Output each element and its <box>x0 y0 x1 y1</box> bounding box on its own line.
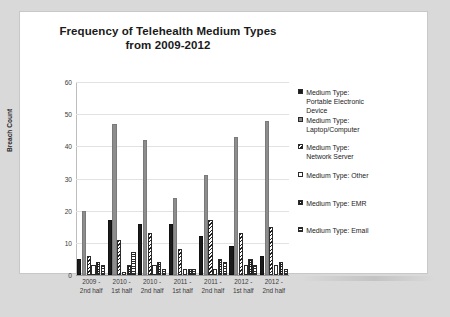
bar <box>96 262 100 275</box>
bar <box>260 256 264 275</box>
y-axis-tick-label: 50 <box>46 111 72 118</box>
bar <box>87 256 91 275</box>
legend-swatch-icon <box>298 117 303 122</box>
bar <box>284 269 288 275</box>
legend-label: Medium Type: Portable Electronic Device <box>306 88 364 116</box>
bar-group <box>259 82 289 275</box>
x-axis-labels: 2009 -2nd half2010 -1st half2010 -2nd ha… <box>76 278 289 302</box>
bar <box>248 259 252 275</box>
bar <box>192 269 196 275</box>
bar <box>101 265 105 275</box>
page-shadow <box>300 276 435 281</box>
y-axis-tick-label: 40 <box>46 143 72 150</box>
bar <box>188 269 192 275</box>
bar <box>204 175 208 275</box>
bar <box>143 140 147 275</box>
bar <box>269 227 273 275</box>
bar <box>274 265 278 275</box>
legend-label: Medium Type: Laptop/Computer <box>306 116 359 134</box>
bar <box>157 262 161 275</box>
bar <box>112 124 116 275</box>
y-axis-tick-label: 0 <box>46 272 72 279</box>
legend-item[interactable]: Medium Type: Other <box>298 171 369 180</box>
bar <box>122 272 126 275</box>
legend-item[interactable]: Medium Type: Network Server <box>298 143 354 161</box>
y-axis-label: Breach Count <box>6 109 13 152</box>
bar-group <box>167 82 197 275</box>
x-axis-tick-label: 2011 -2nd half <box>198 278 228 295</box>
bar <box>173 198 177 275</box>
bar <box>117 240 121 275</box>
bar <box>244 265 248 275</box>
legend-label: Medium Type: Other <box>306 171 368 180</box>
bar <box>82 211 86 275</box>
bar <box>178 249 182 275</box>
legend-item[interactable]: Medium Type: Laptop/Computer <box>298 116 359 134</box>
legend-label: Medium Type: EMR <box>306 199 366 208</box>
x-axis-tick-label: 2012 -1st half <box>228 278 258 295</box>
y-axis-ticks: 0102030405060 <box>42 82 72 275</box>
bar <box>152 265 156 275</box>
bar <box>234 137 238 275</box>
bar <box>279 262 283 275</box>
bar-group <box>137 82 167 275</box>
legend-item[interactable]: Medium Type: Email <box>298 226 368 235</box>
bar <box>131 252 135 275</box>
bar-group <box>106 82 136 275</box>
legend-label: Medium Type: Network Server <box>306 143 353 161</box>
bar <box>77 259 81 275</box>
y-axis-tick-label: 60 <box>46 79 72 86</box>
legend-item[interactable]: Medium Type: Portable Electronic Device <box>298 88 364 116</box>
bar <box>127 265 131 275</box>
x-axis-tick-label: 2010 -2nd half <box>137 278 167 295</box>
bar <box>183 269 187 275</box>
x-axis-tick-label: 2011 -1st half <box>168 278 198 295</box>
bar <box>138 224 142 275</box>
x-axis-line <box>76 275 289 276</box>
chart-card: Frequency of Telehealth Medium Types fro… <box>19 11 428 274</box>
bar <box>148 233 152 275</box>
plot-area <box>76 82 289 275</box>
legend-swatch-icon <box>298 89 303 94</box>
x-axis-tick-label: 2010 -1st half <box>107 278 137 295</box>
bar <box>229 246 233 275</box>
screenshot-root: Frequency of Telehealth Medium Types fro… <box>0 0 450 317</box>
bar-group <box>198 82 228 275</box>
bar <box>208 220 212 275</box>
legend-swatch-icon <box>298 144 303 149</box>
bar <box>213 269 217 275</box>
bar <box>223 262 227 275</box>
bar <box>218 259 222 275</box>
legend-item[interactable]: Medium Type: EMR <box>298 199 367 208</box>
x-axis-tick-label: 2012 -2nd half <box>259 278 289 295</box>
legend-swatch-icon <box>298 227 303 232</box>
bar-group <box>76 82 106 275</box>
y-axis-tick-label: 10 <box>46 239 72 246</box>
bar <box>169 224 173 275</box>
bar <box>239 233 243 275</box>
bar <box>91 265 95 275</box>
x-axis-tick-label: 2009 -2nd half <box>76 278 106 295</box>
bar <box>265 121 269 275</box>
legend-label: Medium Type: Email <box>306 226 368 235</box>
chart-title: Frequency of Telehealth Medium Types fro… <box>48 24 288 52</box>
bar <box>253 265 257 275</box>
legend-swatch-icon <box>298 172 303 177</box>
y-axis-tick-label: 30 <box>46 175 72 182</box>
legend-swatch-icon <box>298 200 303 205</box>
y-axis-tick-label: 20 <box>46 207 72 214</box>
bar <box>108 220 112 275</box>
bar <box>199 236 203 275</box>
bar-group <box>228 82 258 275</box>
bar <box>162 269 166 275</box>
